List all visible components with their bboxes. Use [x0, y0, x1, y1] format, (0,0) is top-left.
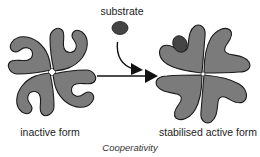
- transition-arrow: [97, 69, 158, 83]
- inactive-subunit-bottom-right: [53, 70, 96, 107]
- substrate-label: substrate: [100, 5, 143, 17]
- substrate-binding-arrow: [117, 42, 143, 75]
- inactive-subunit-top-right: [50, 28, 87, 71]
- active-subunit-bottom-left: [156, 75, 202, 120]
- inactive-subunit-bottom-left: [17, 73, 54, 116]
- active-central-pore: [201, 72, 205, 76]
- inactive-form: [8, 28, 95, 115]
- active-form-label: stabilised active form: [159, 126, 257, 138]
- inactive-form-label: inactive form: [20, 126, 80, 138]
- substrate-molecule: [112, 22, 128, 35]
- active-form: [156, 25, 250, 123]
- figure-caption: Cooperativity: [102, 142, 157, 153]
- inactive-subunit-top-left: [8, 37, 51, 74]
- cooperativity-diagram: substrate inactive form stabilised activ…: [0, 0, 260, 157]
- active-subunit-bottom-right: [201, 75, 247, 123]
- active-subunit-top-right: [204, 28, 250, 73]
